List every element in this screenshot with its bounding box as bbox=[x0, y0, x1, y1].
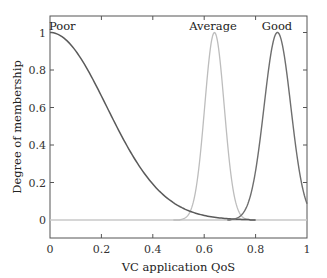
series-label-good: Good bbox=[262, 19, 293, 33]
x-tick-label: 0.8 bbox=[247, 243, 265, 256]
x-tick-label: 1 bbox=[304, 243, 311, 256]
x-tick-label: 0.6 bbox=[195, 243, 213, 256]
x-axis-label: VC application QoS bbox=[121, 260, 236, 274]
x-tick-label: 0.2 bbox=[93, 243, 111, 256]
series-average-line bbox=[173, 33, 255, 221]
y-tick-label: 1 bbox=[39, 27, 46, 40]
y-axis-ticks bbox=[50, 33, 307, 183]
y-axis-label: Degree of membership bbox=[10, 60, 24, 194]
x-axis-ticks bbox=[101, 16, 255, 238]
series-label-average: Average bbox=[188, 19, 237, 33]
y-tick-label: 0.6 bbox=[29, 102, 47, 115]
y-tick-label: 0 bbox=[39, 214, 46, 227]
y-tick-label: 0.2 bbox=[29, 177, 47, 190]
y-tick-label: 0.8 bbox=[29, 64, 47, 77]
plot-frame bbox=[50, 16, 307, 238]
y-tick-labels: 0 0.2 0.4 0.6 0.8 1 bbox=[29, 27, 47, 228]
x-tick-label: 0.4 bbox=[144, 243, 162, 256]
series-label-poor: Poor bbox=[49, 19, 76, 33]
membership-function-chart: 0 0.2 0.4 0.6 0.8 1 0 0.2 0.4 0.6 0.8 1 … bbox=[0, 0, 327, 278]
series-good-line bbox=[227, 33, 307, 220]
y-tick-label: 0.4 bbox=[29, 139, 47, 152]
x-tick-labels: 0 0.2 0.4 0.6 0.8 1 bbox=[47, 243, 311, 256]
series-poor-line bbox=[50, 33, 256, 221]
curves bbox=[50, 33, 307, 221]
x-tick-label: 0 bbox=[47, 243, 54, 256]
